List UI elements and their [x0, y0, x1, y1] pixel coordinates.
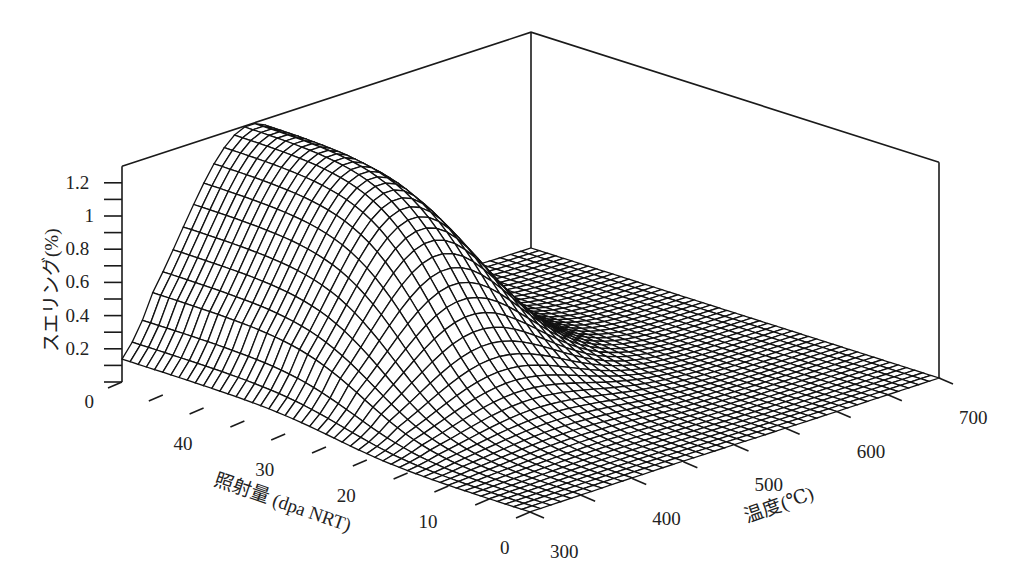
z-tick-label: 0.2 [66, 339, 90, 358]
z-tick-label: 0.4 [66, 306, 90, 325]
temp-tick-label: 600 [857, 442, 886, 461]
surface-plot [0, 0, 1015, 574]
temp-tick-label: 500 [755, 475, 784, 494]
temp-tick-label: 300 [550, 542, 579, 561]
z-tick-label: 1 [85, 206, 95, 225]
dose-tick-label: 40 [174, 434, 193, 453]
z-tick-label: 0 [85, 392, 95, 411]
temp-tick-label: 700 [959, 408, 988, 427]
z-axis-title: スエリング(%) [36, 229, 63, 352]
z-tick-label: 0.6 [66, 272, 90, 291]
dose-tick-label: 0 [500, 538, 510, 557]
dose-tick-label: 10 [418, 512, 437, 531]
z-tick-label: 0.8 [66, 239, 90, 258]
dose-tick-label: 30 [255, 460, 274, 479]
z-tick-label: 1.2 [66, 173, 90, 192]
dose-tick-label: 20 [337, 486, 356, 505]
temp-tick-label: 400 [652, 509, 681, 528]
